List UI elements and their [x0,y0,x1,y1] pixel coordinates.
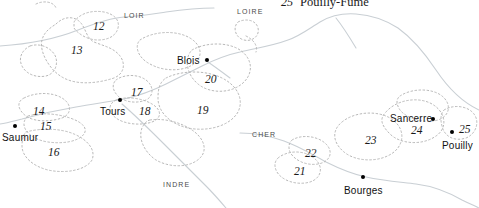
zone-number-13: 13 [71,44,83,56]
river-loire-line [0,14,479,124]
river-label-cher: CHER [252,131,276,138]
zone-number-14: 14 [33,105,45,117]
city-label-tours: Tours [100,106,125,117]
city-label-bourges: Bourges [344,185,383,196]
zone-fragment-nw-boundary [36,2,56,8]
zone-number-16: 16 [48,146,60,158]
zone-number-24: 24 [411,124,423,136]
river-label-indre: INDRE [163,181,190,188]
zone-20-boundary [187,44,250,91]
zone-number-18: 18 [139,105,151,117]
appellation-boundaries [19,2,477,183]
map-geometry-layer [0,0,479,208]
zone-number-15: 15 [40,120,52,132]
zone-number-21: 21 [294,165,306,177]
river-label-loire: LOIRE [237,8,264,15]
river-loir-line [0,8,214,46]
city-dot-pouilly [450,130,454,134]
header-zone-name: Pouilly-Fumé [300,0,369,10]
zone-number-20: 20 [205,73,217,85]
zone-number-22: 22 [305,147,317,159]
zone-number-25: 25 [459,123,471,135]
city-label-blois: Blois [177,55,200,66]
city-label-sancerre: Sancerre [390,113,432,124]
zone-13-west-lobe-boundary [20,45,56,77]
river-label-loir: LOIR [124,12,145,19]
river-tributary-2-line [336,18,356,48]
city-dot-tours [118,98,122,102]
zone-loire-north-boundary [235,20,258,40]
zone-number-12: 12 [93,20,105,32]
river-lines [0,8,479,208]
zone-19-south-boundary [141,119,204,165]
city-label-saumur: Saumur [2,132,38,143]
city-dot-bourges [361,175,365,179]
river-indre-line [122,104,226,208]
city-dot-saumur [13,124,17,128]
header-zone-number: 25 [281,0,293,10]
city-label-pouilly: Pouilly [442,140,473,151]
zone-number-17: 17 [131,86,143,98]
zone-number-23: 23 [365,134,377,146]
wine-region-map: 25 Pouilly-Fumé LOIR LOIRE CHER INDRE 12… [0,0,479,208]
zone-number-19: 19 [197,104,209,116]
city-dot-blois [205,58,209,62]
